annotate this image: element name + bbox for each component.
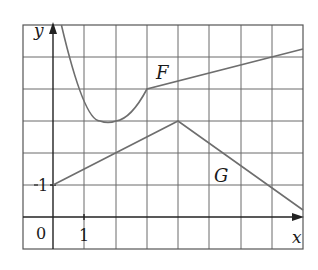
curve-f-label: F — [155, 62, 170, 83]
plot-border — [23, 25, 303, 249]
y-axis-label: y — [33, 20, 44, 40]
graph-figure: y x 0 1 1 F G — [0, 0, 318, 270]
x-axis-arrow-icon — [292, 213, 304, 221]
curve-g-label: G — [214, 165, 228, 186]
curve-f — [61, 25, 303, 123]
x-tick-label-1: 1 — [79, 226, 89, 245]
x-axis-label: x — [292, 227, 302, 247]
origin-label: 0 — [36, 224, 46, 243]
grid-lines — [23, 25, 303, 249]
y-axis-arrow-icon — [49, 22, 57, 34]
y-tick-label-1: 1 — [38, 176, 48, 195]
